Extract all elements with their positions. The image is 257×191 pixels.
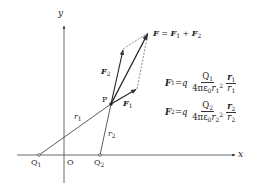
charge-q1-label: Q1	[31, 159, 41, 168]
charge-q1-point	[38, 154, 41, 157]
f1-label: F1	[123, 99, 133, 109]
r2-label: r2	[108, 130, 116, 139]
equation-f2: F2 = q Q2 4πε0r22 r2 r2	[165, 101, 237, 124]
point-p-label: P	[102, 96, 107, 104]
charge-q2-label: Q2	[94, 159, 104, 168]
unit-vector-fraction: r1 r1	[226, 73, 236, 95]
charge-q2-point	[99, 154, 102, 157]
y-axis-label: y	[58, 9, 63, 18]
f2-label: F2	[101, 67, 111, 77]
parallelogram-edge	[137, 33, 148, 89]
f2-vector	[111, 50, 123, 104]
equation-f1: F1 = q Q1 4πε0r12 r1 r1	[165, 72, 237, 95]
coulomb-fraction: Q2 4πε0r22	[191, 101, 224, 124]
origin-label: O	[67, 159, 74, 167]
f-total-label: F = F1 + F2	[153, 29, 201, 39]
r1-label: r1	[74, 113, 82, 122]
unit-vector-fraction: r2 r2	[226, 102, 236, 124]
x-axis-label: x	[238, 150, 243, 159]
point-p	[109, 102, 112, 105]
coulomb-fraction: Q1 4πε0r12	[191, 72, 224, 95]
